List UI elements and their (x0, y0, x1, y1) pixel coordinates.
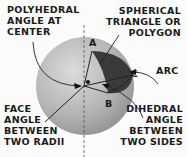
label-line: CENTER (7, 26, 80, 37)
label-line: POLYGON (106, 27, 181, 38)
label-arc: ARC (156, 65, 179, 76)
label-line: ANGLE AT (7, 15, 80, 26)
label-line: TWO RADII (4, 136, 65, 147)
point-c-label: C (131, 68, 138, 79)
label-line: DIHEDRAL (120, 103, 183, 114)
center-point (86, 80, 90, 84)
label-line: FACE (4, 103, 65, 114)
label-line: SPHERICAL (106, 5, 181, 16)
label-line: POLYHEDRAL (7, 4, 80, 15)
label-line: BETWEEN (4, 125, 65, 136)
label-line: ANGLE (120, 114, 183, 125)
label-dihedral-angle: DIHEDRAL ANGLE BETWEEN TWO SIDES (120, 103, 183, 147)
label-spherical-triangle: SPHERICAL TRIANGLE OR POLYGON (106, 5, 181, 38)
label-line: ANGLE (4, 114, 65, 125)
label-line: TRIANGLE OR (106, 16, 181, 27)
spherical-geometry-diagram: POLYHEDRAL ANGLE AT CENTER SPHERICAL TRI… (0, 0, 187, 157)
label-polyhedral-angle: POLYHEDRAL ANGLE AT CENTER (7, 4, 80, 37)
label-line: BETWEEN (120, 125, 183, 136)
point-b-label: B (105, 98, 113, 109)
label-line: TWO SIDES (120, 136, 183, 147)
label-face-angle: FACE ANGLE BETWEEN TWO RADII (4, 103, 65, 147)
point-a-label: A (89, 37, 97, 48)
